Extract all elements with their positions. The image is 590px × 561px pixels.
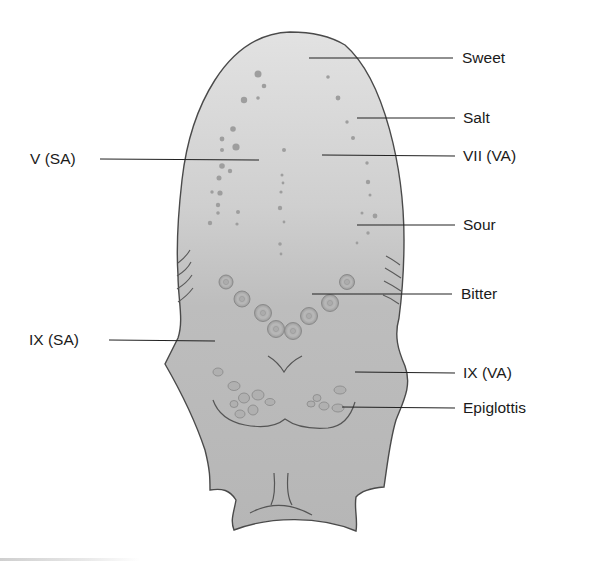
label-ix-va: IX (VA) xyxy=(463,364,512,382)
label-bitter: Bitter xyxy=(461,285,497,303)
label-sweet: Sweet xyxy=(462,49,505,67)
label-epiglottis: Epiglottis xyxy=(463,399,526,417)
label-vii-va: VII (VA) xyxy=(463,147,516,165)
label-salt: Salt xyxy=(463,109,490,127)
label-v-sa: V (SA) xyxy=(30,150,76,168)
tongue-outline xyxy=(165,32,408,531)
label-sour: Sour xyxy=(463,216,496,234)
tongue-diagram: Sweet Salt V (SA) VII (VA) Sour Bitter I… xyxy=(0,0,590,561)
label-ix-sa: IX (SA) xyxy=(29,331,79,349)
